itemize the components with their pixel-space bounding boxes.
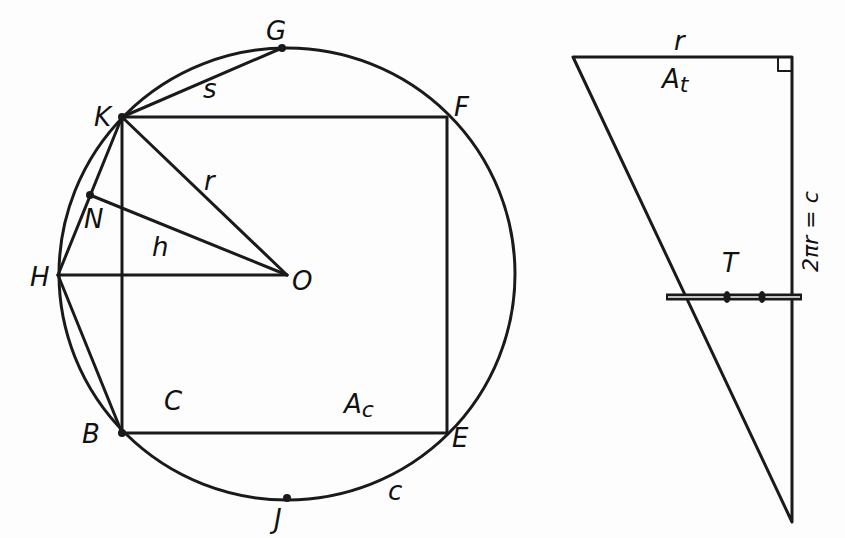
label-T: T [722, 248, 740, 278]
label-G: G [266, 16, 286, 46]
label-F: F [454, 92, 470, 122]
label-r: r [204, 166, 217, 196]
label-J: J [269, 504, 282, 534]
label-E: E [452, 423, 469, 453]
label-O: O [292, 266, 312, 296]
label-At: At [660, 64, 690, 97]
label-r-base: r [674, 26, 687, 56]
left-figure: G K F H N O B E J s r h C Ac c [30, 16, 515, 534]
T-tick-2 [759, 291, 766, 303]
right-triangle [573, 57, 792, 522]
chord-HB [58, 275, 122, 433]
chord-KG [122, 48, 282, 117]
point-B-dot [118, 429, 126, 437]
apothem-NO [90, 195, 287, 275]
T-tick-1 [724, 291, 731, 303]
radius-KO [122, 117, 287, 275]
geometry-figure: G K F H N O B E J s r h C Ac c r At T 2π… [0, 0, 845, 538]
label-B: B [82, 419, 100, 449]
label-s: s [203, 74, 217, 104]
label-Ac: Ac [342, 389, 374, 422]
label-c: c [388, 476, 402, 506]
label-C: C [164, 386, 183, 416]
point-K-dot [118, 113, 126, 121]
label-height-2pir-c: 2πr = c [798, 191, 823, 272]
right-figure: r At T 2πr = c [573, 26, 823, 522]
label-K: K [94, 102, 113, 132]
label-h: h [152, 232, 168, 262]
diagram-canvas: G K F H N O B E J s r h C Ac c r At T 2π… [0, 0, 845, 538]
label-N: N [84, 204, 103, 234]
label-H: H [30, 262, 50, 292]
point-N-dot [86, 191, 94, 199]
point-J-dot [283, 494, 291, 502]
right-angle-marker [778, 57, 792, 71]
